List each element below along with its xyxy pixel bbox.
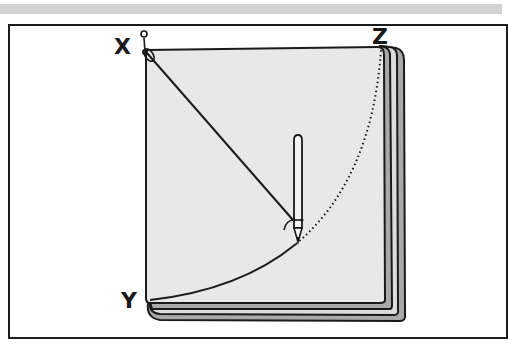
label-x: X: [114, 36, 131, 58]
label-y: Y: [121, 290, 137, 312]
pin-icon: [141, 31, 148, 55]
label-z: Z: [372, 26, 388, 48]
